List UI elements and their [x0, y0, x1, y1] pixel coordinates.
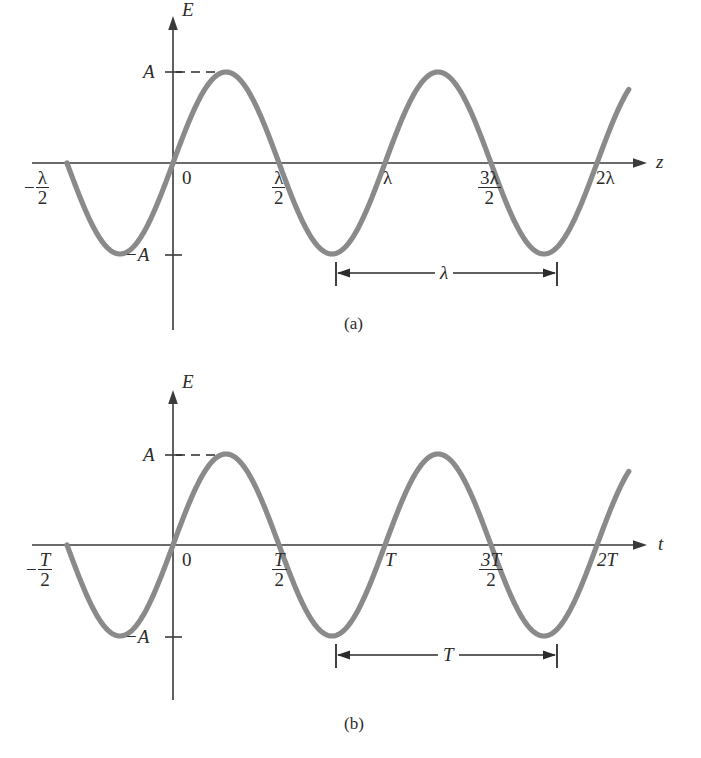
- panel-b-dimension-label: T: [438, 645, 459, 664]
- panel-b-caption: (b): [344, 715, 364, 732]
- fraction-numerator: λ: [36, 168, 49, 188]
- panel-a-tick-half-lambda: λ 2: [272, 168, 286, 208]
- panel-b-tick-half-period: T 2: [272, 550, 287, 590]
- neg-amplitude-letter: A: [138, 627, 150, 646]
- panel-a-tick-lambda: λ: [383, 168, 392, 187]
- panel-b-neg-amplitude-label: − A: [126, 627, 149, 646]
- panel-b-y-axis-label: E: [182, 372, 194, 391]
- panel-a-tick-three-half-lambda: 3λ 2: [478, 168, 501, 208]
- panel-a-dimension-label: λ: [435, 263, 453, 282]
- fraction-numerator: T: [272, 550, 287, 570]
- panel-a-tick-two-lambda: 2λ: [596, 168, 615, 187]
- panel-a-tick-origin: 0: [182, 168, 192, 187]
- fraction-denominator: 2: [483, 188, 497, 207]
- panel-a-amplitude-label: A: [143, 62, 155, 81]
- panel-b-tick-origin: 0: [182, 550, 192, 569]
- panel-b-tick-neg-half-period: − T 2: [26, 550, 52, 590]
- panel-b-tick-two-period: 2T: [597, 550, 617, 569]
- fraction-numerator: 3λ: [478, 168, 501, 188]
- wave-figure: E z A − A − λ 2 0 λ 2 λ 3λ 2 2λ λ (a: [0, 0, 701, 758]
- panel-b-amplitude-label: A: [143, 445, 155, 464]
- neg-amplitude-letter: A: [138, 245, 150, 264]
- panel-a-tick-neg-half-lambda: − λ 2: [24, 168, 49, 208]
- fraction-denominator: 2: [484, 570, 498, 589]
- fraction-denominator: 2: [36, 188, 50, 207]
- panel-a-caption: (a): [344, 315, 363, 332]
- fraction-denominator: 2: [38, 570, 52, 589]
- fraction-denominator: 2: [273, 570, 287, 589]
- minus-sign: −: [126, 627, 137, 646]
- panel-b-plot: [0, 380, 701, 758]
- minus-sign: −: [126, 245, 137, 264]
- panel-b-tick-three-half-period: 3T 2: [479, 550, 503, 590]
- panel-b-x-axis-label: t: [658, 534, 663, 553]
- panel-b-x-axis: [32, 540, 647, 550]
- panel-a-y-axis-label: E: [182, 0, 194, 19]
- panel-a-neg-amplitude-label: − A: [126, 245, 149, 264]
- panel-a-x-axis: [32, 158, 647, 168]
- fraction-numerator: T: [38, 550, 53, 570]
- panel-a-x-axis-label: z: [656, 152, 663, 171]
- panel-b-tick-period: T: [385, 550, 396, 569]
- minus-sign: −: [24, 178, 35, 197]
- minus-sign: −: [26, 560, 37, 579]
- fraction-numerator: 3T: [479, 550, 503, 570]
- fraction-denominator: 2: [272, 188, 286, 207]
- fraction-numerator: λ: [272, 168, 285, 188]
